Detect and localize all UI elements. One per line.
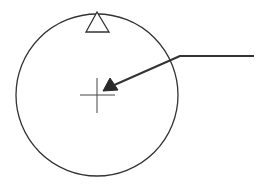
diagram-svg xyxy=(0,0,259,189)
leader-line xyxy=(112,56,254,86)
diagram-canvas xyxy=(0,0,259,189)
